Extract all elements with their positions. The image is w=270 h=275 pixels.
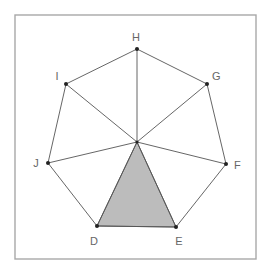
spoke-center-to-f: [137, 142, 226, 164]
vertex-label-h: H: [132, 31, 140, 43]
heptagon-diagram: HGFEDJI: [0, 0, 270, 275]
spoke-center-to-g: [137, 84, 207, 142]
vertex-point-f: [224, 162, 228, 166]
vertex-label-g: G: [212, 70, 221, 82]
vertex-point-i: [64, 82, 68, 86]
vertex-label-j: J: [33, 157, 39, 169]
vertex-point-g: [205, 82, 209, 86]
vertex-label-i: I: [55, 70, 58, 82]
vertex-label-e: E: [175, 235, 182, 247]
shaded-triangle-center-d-e: [97, 142, 176, 227]
center-point: [135, 140, 138, 143]
vertex-point-e: [174, 225, 178, 229]
vertex-label-d: D: [90, 235, 98, 247]
spoke-center-to-i: [66, 84, 137, 142]
vertex-point-d: [95, 224, 99, 228]
vertex-point-j: [46, 161, 50, 165]
spoke-center-to-j: [48, 142, 137, 163]
vertex-label-f: F: [234, 159, 241, 171]
vertex-point-h: [135, 47, 139, 51]
